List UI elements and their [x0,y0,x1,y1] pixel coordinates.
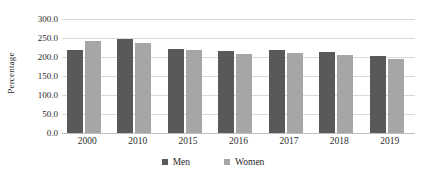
y-axis-tick-label: 100.0 [20,91,58,100]
bar-women-2019 [388,59,404,133]
bar-men-2019 [370,56,386,133]
bar-group [112,19,162,133]
y-axis-tick-label: 250.0 [20,34,58,43]
bar-women-2018 [337,55,353,133]
y-axis-tick-label: 0.0 [20,129,58,138]
x-axis-line [62,133,415,134]
bar-men-2016 [218,51,234,133]
y-axis-tick-label: 150.0 [20,72,58,81]
bar-men-2000 [67,50,83,133]
x-axis-tick-label: 2000 [62,136,112,146]
bar-chart: Percentage 0.050.0100.0150.0200.0250.030… [0,0,426,184]
legend-swatch-icon [162,159,168,165]
x-axis-tick-label: 2015 [163,136,213,146]
x-axis-tick-labels: 2000201020152016201720182019 [62,136,415,152]
legend-label: Women [235,157,264,167]
legend-label: Men [173,157,190,167]
bar-men-2010 [117,39,133,133]
bar-women-2000 [85,41,101,133]
legend-swatch-icon [224,159,230,165]
y-axis-tick-label: 50.0 [20,110,58,119]
bar-group [365,19,415,133]
x-axis-tick-label: 2016 [214,136,264,146]
legend-entry-men: Men [162,157,190,167]
x-axis-tick-label: 2017 [264,136,314,146]
bar-group [163,19,213,133]
y-axis-tick-labels: 0.050.0100.0150.0200.0250.0300.0 [20,0,58,140]
x-axis-tick-label: 2019 [365,136,415,146]
y-axis-title: Percentage [0,0,22,145]
bar-women-2016 [236,54,252,133]
x-axis-tick-label: 2010 [113,136,163,146]
x-axis-tick-label: 2018 [314,136,364,146]
bar-men-2015 [168,49,184,133]
bar-men-2018 [319,52,335,133]
bars-layer [62,19,415,133]
bar-women-2015 [186,50,202,133]
bar-group [62,19,112,133]
bar-women-2017 [287,53,303,133]
y-axis-title-label: Percentage [6,52,16,93]
bar-group [264,19,314,133]
y-axis-tick-label: 200.0 [20,53,58,62]
bar-group [213,19,263,133]
bar-group [314,19,364,133]
legend-entry-women: Women [224,157,264,167]
chart-legend: MenWomen [0,157,426,167]
y-axis-tick-label: 300.0 [20,15,58,24]
bar-women-2010 [135,43,151,133]
bar-men-2017 [269,50,285,133]
